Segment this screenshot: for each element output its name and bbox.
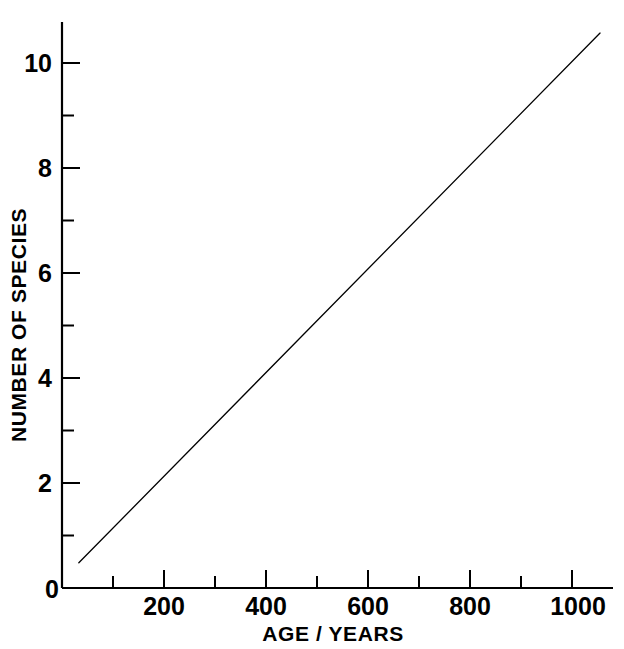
data-series-group	[79, 33, 600, 563]
y-tick-label-8: 8	[38, 154, 52, 182]
line-chart-canvas: 10 8 6 4 2 0 200 400 600 800 1000 AGE / …	[0, 0, 624, 649]
series-line-species-accumulation	[79, 33, 600, 563]
x-tick-label-600: 600	[347, 592, 389, 620]
x-tick-label-400: 400	[245, 592, 287, 620]
x-tick-label-1000: 1000	[550, 592, 606, 620]
y-tick-label-4: 4	[38, 364, 52, 392]
chart-figure: · ·· · · ·	[0, 0, 624, 649]
x-tick-label-800: 800	[449, 592, 491, 620]
x-axis-minor-ticks	[113, 576, 521, 588]
x-axis-major-ticks	[164, 570, 572, 588]
y-tick-label-2: 2	[38, 469, 52, 497]
y-axis-minor-ticks	[62, 116, 74, 536]
y-tick-label-10: 10	[24, 49, 52, 77]
y-tick-label-0: 0	[45, 575, 59, 603]
y-tick-label-6: 6	[38, 259, 52, 287]
axes-group	[62, 22, 613, 588]
y-axis-title: NUMBER OF SPECIES	[7, 208, 30, 442]
x-axis-title: AGE / YEARS	[262, 622, 404, 645]
x-tick-label-200: 200	[143, 592, 185, 620]
x-axis-tick-labels: 200 400 600 800 1000	[143, 592, 606, 620]
